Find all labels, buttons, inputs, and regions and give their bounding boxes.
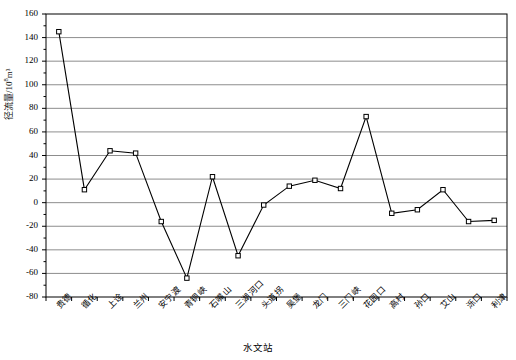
data-point-marker[interactable]: [364, 114, 368, 118]
y-tick-label: -20: [12, 221, 38, 230]
data-point-marker[interactable]: [287, 184, 291, 188]
data-point-marker[interactable]: [210, 175, 214, 179]
data-point-marker[interactable]: [159, 219, 163, 223]
data-point-marker[interactable]: [338, 186, 342, 190]
y-tick-label: 60: [12, 127, 38, 136]
data-line: [59, 32, 494, 278]
data-point-marker[interactable]: [390, 211, 394, 215]
y-tick-label: 40: [12, 151, 38, 160]
y-tick-label: -80: [12, 292, 38, 301]
data-point-marker[interactable]: [236, 254, 240, 258]
data-point-marker[interactable]: [492, 218, 496, 222]
data-point-marker[interactable]: [313, 178, 317, 182]
data-point-marker[interactable]: [82, 187, 86, 191]
data-point-marker[interactable]: [57, 29, 61, 33]
plot-area: [0, 0, 516, 360]
y-tick-label: 140: [12, 33, 38, 42]
x-axis-title: 水文站: [0, 340, 516, 354]
y-tick-label: 80: [12, 103, 38, 112]
y-tick-label: 160: [12, 9, 38, 18]
y-tick-label: -40: [12, 245, 38, 254]
y-tick-label: 20: [12, 174, 38, 183]
y-tick-label: 0: [12, 198, 38, 207]
runoff-line-chart: 径流量/108m³ 水文站 160140120100806040200-20-4…: [0, 0, 516, 360]
y-tick-label: 120: [12, 56, 38, 65]
data-point-marker[interactable]: [108, 149, 112, 153]
y-tick-label: -60: [12, 268, 38, 277]
data-point-marker[interactable]: [441, 187, 445, 191]
data-point-marker[interactable]: [261, 203, 265, 207]
data-point-marker[interactable]: [466, 219, 470, 223]
data-point-marker[interactable]: [185, 276, 189, 280]
data-point-marker[interactable]: [415, 208, 419, 212]
data-point-marker[interactable]: [133, 151, 137, 155]
y-tick-label: 100: [12, 80, 38, 89]
